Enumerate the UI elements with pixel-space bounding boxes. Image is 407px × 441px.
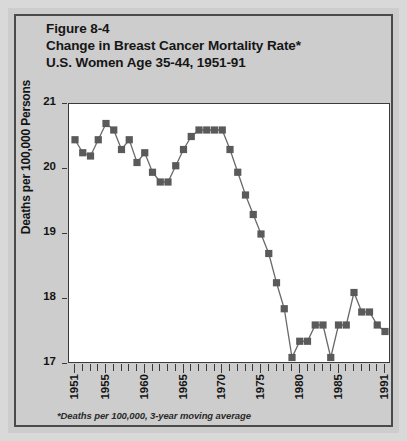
x-axis-tick — [128, 364, 129, 371]
data-point — [296, 338, 303, 345]
y-axis-tick — [62, 233, 67, 234]
x-axis-tick-label: 1965 — [177, 374, 189, 400]
x-axis-tick — [136, 364, 137, 371]
data-point — [288, 354, 295, 361]
x-axis-tick — [190, 364, 191, 371]
data-point — [265, 250, 272, 257]
data-point — [102, 120, 109, 127]
data-point — [195, 126, 202, 133]
figure-screenshot: Figure 8-4 Change in Breast Cancer Morta… — [0, 0, 407, 441]
data-point — [304, 338, 311, 345]
data-point — [95, 136, 102, 143]
data-point — [226, 146, 233, 153]
x-axis-tick — [152, 364, 153, 371]
x-axis-tick — [322, 364, 323, 371]
x-axis-tick — [299, 364, 300, 373]
figure-footnote: *Deaths per 100,000, 3-year moving avera… — [57, 410, 251, 421]
data-point — [350, 289, 357, 296]
x-axis-tick — [198, 364, 199, 371]
data-point — [319, 321, 326, 328]
figure-title-line-2: U.S. Women Age 35-44, 1951-91 — [46, 54, 376, 71]
x-axis-tick — [276, 364, 277, 371]
x-axis-tick — [90, 364, 91, 371]
data-point — [257, 230, 264, 237]
data-point — [180, 146, 187, 153]
x-axis-tick-label: 1991 — [378, 374, 390, 400]
x-axis-tick — [376, 364, 377, 371]
x-axis-tick — [268, 364, 269, 371]
x-axis-tick — [82, 364, 83, 371]
x-axis-tick-label: 1955 — [99, 374, 111, 400]
x-axis-tick-label: 1975 — [254, 374, 266, 400]
y-axis-title: Deaths per 100,000 Persons — [19, 27, 33, 287]
figure-number: Figure 8-4 — [46, 20, 376, 37]
line-chart-svg — [69, 104, 391, 364]
x-axis-tick — [229, 364, 230, 371]
x-axis-tick-label: 1960 — [138, 374, 150, 400]
data-point — [219, 126, 226, 133]
x-axis-tick — [113, 364, 114, 371]
data-point — [211, 126, 218, 133]
x-axis-tick — [206, 364, 207, 371]
x-axis-tick-label: 1970 — [215, 374, 227, 400]
data-point — [381, 328, 388, 335]
x-axis-tick-label: 1951 — [68, 374, 80, 400]
y-axis-tick — [62, 298, 67, 299]
data-point — [110, 126, 117, 133]
x-axis-tick — [283, 364, 284, 371]
y-axis-tick-label: 21 — [22, 95, 56, 107]
data-point — [172, 162, 179, 169]
x-axis-tick — [97, 364, 98, 371]
data-point — [312, 321, 319, 328]
data-point — [335, 321, 342, 328]
x-axis-tick — [214, 364, 215, 371]
y-axis-tick — [62, 103, 67, 104]
data-point — [234, 169, 241, 176]
x-axis-tick — [345, 364, 346, 371]
data-point — [126, 136, 133, 143]
figure-title-block: Figure 8-4 Change in Breast Cancer Morta… — [46, 20, 376, 71]
data-point — [133, 159, 140, 166]
x-axis-tick-label: 1985 — [332, 374, 344, 400]
y-axis-tick-label: 18 — [22, 290, 56, 302]
x-axis-tick-label: 1980 — [293, 374, 305, 400]
x-axis-tick — [369, 364, 370, 371]
x-axis-tick — [105, 364, 106, 373]
y-axis-tick-label: 17 — [22, 355, 56, 367]
data-point — [141, 149, 148, 156]
x-axis-tick — [167, 364, 168, 371]
x-axis-tick — [338, 364, 339, 373]
x-axis-tick — [314, 364, 315, 371]
data-point — [149, 169, 156, 176]
x-axis-tick — [144, 364, 145, 373]
x-axis-tick — [121, 364, 122, 371]
x-axis-tick — [361, 364, 362, 371]
y-axis-tick-label: 20 — [22, 160, 56, 172]
data-point — [366, 308, 373, 315]
data-point — [281, 305, 288, 312]
data-point — [250, 211, 257, 218]
x-axis-tick — [183, 364, 184, 373]
data-point — [71, 136, 78, 143]
x-axis-tick — [175, 364, 176, 371]
data-point — [87, 152, 94, 159]
figure-title-line-1: Change in Breast Cancer Mortality Rate* — [46, 37, 376, 54]
data-point — [164, 178, 171, 185]
x-axis-ticks — [68, 364, 390, 373]
data-point — [203, 126, 210, 133]
x-axis-tick — [353, 364, 354, 371]
data-point — [157, 178, 164, 185]
y-axis-tick — [62, 363, 67, 364]
y-axis-tick-label: 19 — [22, 225, 56, 237]
data-point — [242, 191, 249, 198]
x-axis-tick — [252, 364, 253, 371]
data-point — [358, 308, 365, 315]
x-axis-tick — [221, 364, 222, 373]
x-axis-tick — [307, 364, 308, 371]
data-markers — [71, 120, 388, 361]
data-point — [343, 321, 350, 328]
data-point — [273, 279, 280, 286]
x-axis-tick — [74, 364, 75, 373]
x-axis-tick — [330, 364, 331, 371]
y-axis-tick — [62, 168, 67, 169]
